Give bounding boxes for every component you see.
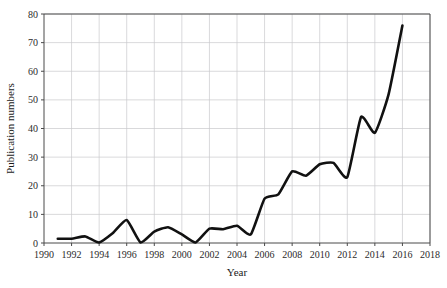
x-axis-title: Year bbox=[227, 266, 248, 278]
x-tick-labels: 1990199219941996199820002002200420062008… bbox=[34, 249, 440, 260]
x-tick-label: 2006 bbox=[255, 249, 275, 260]
y-tick-label: 10 bbox=[28, 209, 38, 220]
x-tick-label: 2016 bbox=[392, 249, 412, 260]
x-tick-label: 2000 bbox=[172, 249, 192, 260]
y-tick-label: 80 bbox=[28, 9, 38, 20]
y-tick-label: 40 bbox=[28, 123, 38, 134]
x-tick-label: 2008 bbox=[282, 249, 302, 260]
x-tick-label: 2012 bbox=[337, 249, 357, 260]
y-tick-label: 20 bbox=[28, 180, 38, 191]
x-tick-label: 2018 bbox=[420, 249, 440, 260]
publication-numbers-chart: 01020304050607080 1990199219941996199820… bbox=[0, 0, 447, 288]
y-tick-label: 50 bbox=[28, 94, 38, 105]
y-tick-label: 70 bbox=[28, 37, 38, 48]
y-tick-label: 30 bbox=[28, 152, 38, 163]
y-tick-label: 0 bbox=[33, 238, 38, 249]
y-axis-title: Publication numbers bbox=[4, 83, 16, 174]
x-tick-label: 1994 bbox=[89, 249, 109, 260]
x-tick-label: 2014 bbox=[365, 249, 385, 260]
x-tick-label: 1996 bbox=[117, 249, 137, 260]
x-tick-label: 2004 bbox=[227, 249, 247, 260]
chart-canvas: 01020304050607080 1990199219941996199820… bbox=[0, 0, 447, 288]
x-tick-label: 2010 bbox=[310, 249, 330, 260]
x-tick-label: 1990 bbox=[34, 249, 54, 260]
y-tick-label: 60 bbox=[28, 66, 38, 77]
x-tick-label: 2002 bbox=[199, 249, 219, 260]
y-tick-labels: 01020304050607080 bbox=[28, 9, 38, 249]
data-series-line bbox=[58, 25, 403, 242]
x-tick-label: 1998 bbox=[144, 249, 164, 260]
x-tick-label: 1992 bbox=[62, 249, 82, 260]
